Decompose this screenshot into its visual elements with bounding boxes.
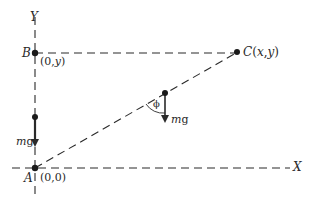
left-weight-m: m — [16, 135, 26, 148]
point-c-coord: (x,y) — [252, 45, 279, 59]
point-c-name: C — [243, 45, 252, 59]
point-c-label: C(x,y) — [243, 46, 279, 58]
left-mass-dot — [32, 114, 38, 120]
left-weight-g: g — [26, 135, 33, 148]
x-axis-label: X — [293, 161, 302, 173]
left-weight-label: mg — [16, 136, 33, 147]
middle-weight-g: g — [181, 113, 188, 126]
point-a-label: A — [24, 172, 33, 184]
point-b-label: B — [22, 47, 31, 59]
middle-mass-dot — [162, 90, 168, 96]
line-a-to-c — [35, 53, 236, 168]
point-b-coord: ((0,y)0,y) — [40, 56, 65, 67]
middle-weight-label: mg — [171, 114, 188, 125]
y-axis-label: Y — [30, 11, 38, 23]
point-c-dot — [234, 49, 240, 55]
point-a-coord: (0,0) — [40, 172, 66, 183]
angle-phi-label: ϕ — [153, 99, 160, 109]
point-b-dot — [32, 50, 38, 56]
middle-weight-m: m — [171, 113, 181, 126]
